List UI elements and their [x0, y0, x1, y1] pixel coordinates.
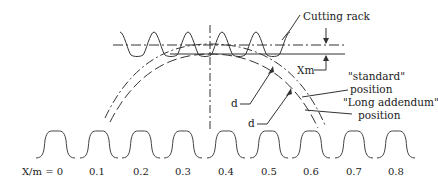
shift-label-0: X/m = 0	[22, 166, 63, 177]
shift-label-4: 0.4	[218, 166, 234, 177]
shift-label-7: 0.7	[346, 166, 362, 177]
d-label-upper: d	[231, 97, 238, 109]
shift-label-8: 0.8	[388, 166, 404, 177]
shift-label-6: 0.6	[303, 166, 319, 177]
shift-label-3: 0.3	[175, 166, 191, 177]
shift-label-1: 0.1	[89, 166, 105, 177]
profile-shift-figure: Cutting rack Xm "standard" position "Lon…	[0, 0, 438, 189]
tooth-profiles	[36, 131, 415, 158]
xm-label: Xm	[297, 64, 314, 76]
long-addendum-label-line2: position	[358, 109, 401, 121]
d-leader-upper	[250, 70, 272, 104]
shift-label-2: 0.2	[133, 166, 149, 177]
cutting-rack-label: Cutting rack	[303, 10, 371, 22]
long-addendum-pitch-circle	[110, 54, 318, 128]
d-leader-lower	[267, 92, 290, 124]
standard-label-line2: position	[350, 83, 393, 95]
diagram-canvas: Cutting rack Xm "standard" position "Lon…	[0, 0, 438, 189]
standard-label-line1: "standard"	[348, 70, 405, 82]
long-addendum-label-line1: "Long addendum"	[343, 96, 438, 108]
d-label-lower: d	[248, 117, 255, 129]
shift-label-5: 0.5	[261, 166, 277, 177]
